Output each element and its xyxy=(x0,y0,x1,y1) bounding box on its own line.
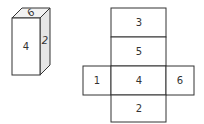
net-label-right: 6 xyxy=(177,75,183,86)
net-label-top: 3 xyxy=(136,17,142,28)
net-label-center: 4 xyxy=(136,75,142,86)
cuboid: 4 6 2 xyxy=(12,6,50,75)
net-label-upper-middle: 5 xyxy=(136,46,142,57)
net-label-left: 1 xyxy=(94,75,100,86)
diagram-canvas: 4 6 2 3 5 1 4 6 2 xyxy=(0,0,204,124)
cuboid-front-label: 4 xyxy=(23,41,29,52)
net-label-bottom: 2 xyxy=(136,103,142,114)
cuboid-side-label: 2 xyxy=(42,35,48,46)
cube-net: 3 5 1 4 6 2 xyxy=(83,8,194,122)
